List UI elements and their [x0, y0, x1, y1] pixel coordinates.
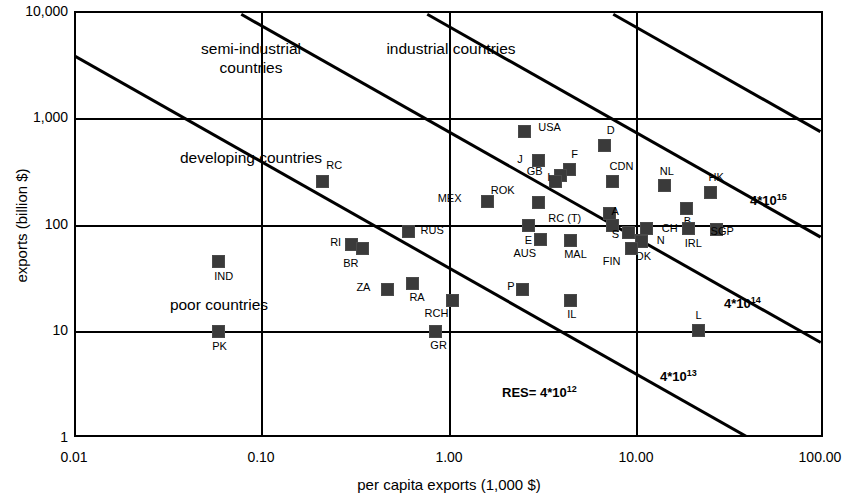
- data-point-marker: [316, 175, 329, 188]
- data-point-label: GB: [527, 166, 543, 177]
- data-point-marker: [518, 125, 531, 138]
- data-point-label: MEX: [438, 193, 462, 204]
- data-point-label: IL: [567, 309, 576, 320]
- data-point-marker: [381, 283, 394, 296]
- y-axis-ticks: 10,000 1,000 100 10 1: [0, 0, 68, 495]
- iso-line-label-exponent: 15: [777, 192, 787, 202]
- data-point-marker: [680, 202, 693, 215]
- data-point-marker: [406, 277, 419, 290]
- x-tick-10-00: 10.00: [618, 450, 653, 464]
- data-point-label: RC: [326, 160, 342, 171]
- data-point-marker: [429, 325, 442, 338]
- y-tick-100: 100: [45, 217, 68, 231]
- data-point-label: PK: [212, 341, 227, 352]
- y-tick-1: 1: [60, 430, 68, 444]
- data-point-label: RC (T): [548, 213, 581, 224]
- data-point-label: IND: [214, 271, 233, 282]
- data-point-marker: [532, 196, 545, 209]
- gridline-x-1-00: [449, 13, 451, 435]
- data-point-marker: [598, 139, 611, 152]
- iso-line-label-exponent: 12: [567, 384, 577, 394]
- data-point-label: ZA: [356, 282, 370, 293]
- x-tick-0-01: 0.01: [60, 450, 87, 464]
- zone-label: poor countries: [119, 296, 319, 314]
- iso-line-label-base: 4*10: [660, 369, 687, 384]
- iso-line-label-base: RES= 4*10: [502, 385, 567, 400]
- data-point-marker: [658, 179, 671, 192]
- data-point-label: I: [547, 172, 550, 183]
- data-point-label: AUS: [513, 248, 536, 259]
- data-point-label: ROK: [491, 185, 515, 196]
- plot-area: semi-industrialcountriesindustrial count…: [74, 11, 823, 437]
- y-tick-10: 10: [52, 323, 68, 337]
- x-tick-100-00: 100.00: [799, 450, 842, 464]
- zone-label: countries: [151, 59, 351, 77]
- data-point-label: RUS: [421, 225, 444, 236]
- data-point-label: CH: [662, 223, 678, 234]
- data-point-label: D: [607, 125, 615, 136]
- data-point-label: SGP: [711, 226, 734, 237]
- data-point-marker: [516, 283, 529, 296]
- gridline-y-10: [76, 331, 821, 333]
- x-axis-title: per capita exports (1,000 $): [357, 476, 540, 493]
- data-point-marker: [606, 175, 619, 188]
- data-point-marker: [481, 195, 494, 208]
- iso-resource-line: [613, 13, 821, 133]
- data-point-marker: [682, 222, 695, 235]
- data-point-label: RA: [409, 292, 424, 303]
- data-point-label: RI: [330, 237, 341, 248]
- data-point-label: MAL: [564, 249, 587, 260]
- data-point-label: CDN: [610, 161, 634, 172]
- data-point-marker: [625, 242, 638, 255]
- data-point-marker: [564, 294, 577, 307]
- data-point-label: USA: [538, 122, 561, 133]
- data-point-label: DK: [636, 251, 651, 262]
- data-point-label: RCH: [425, 308, 449, 319]
- data-point-label: E: [525, 235, 532, 246]
- data-point-marker: [212, 325, 225, 338]
- chart-root: 10,000 1,000 100 10 1 exports (billion $…: [0, 0, 845, 495]
- data-point-marker: [534, 233, 547, 246]
- data-point-label: A: [612, 206, 619, 217]
- iso-line-label-base: 4*10: [750, 193, 777, 208]
- zone-label: developing countries: [151, 149, 351, 167]
- iso-line-label: RES= 4*1012: [502, 384, 577, 400]
- iso-line-label: 4*1014: [724, 295, 761, 311]
- data-point-marker: [704, 186, 717, 199]
- iso-line-label: 4*1015: [750, 192, 787, 208]
- data-point-marker: [212, 255, 225, 268]
- data-point-marker: [549, 175, 562, 188]
- iso-line-label: 4*1013: [660, 368, 697, 384]
- data-point-marker: [564, 234, 577, 247]
- x-tick-1-00: 1.00: [435, 450, 462, 464]
- iso-line-label-exponent: 13: [687, 368, 697, 378]
- data-point-label: BR: [343, 258, 358, 269]
- data-point-label: NL: [660, 166, 674, 177]
- x-tick-0-10: 0.10: [247, 450, 274, 464]
- data-point-marker: [622, 226, 635, 239]
- zone-label: semi-industrial: [151, 40, 351, 58]
- data-point-label: P: [507, 281, 514, 292]
- y-axis-title: exports (billion $): [13, 151, 30, 301]
- data-point-label: J: [517, 154, 523, 165]
- data-point-label: HK: [708, 172, 723, 183]
- data-point-label: S: [612, 229, 619, 240]
- iso-line-label-exponent: 14: [751, 295, 761, 305]
- data-point-label: F: [571, 149, 578, 160]
- data-point-marker: [446, 294, 459, 307]
- data-point-label: GR: [430, 340, 447, 351]
- data-point-marker: [402, 225, 415, 238]
- y-tick-1000: 1,000: [33, 110, 68, 124]
- data-point-label: IRL: [685, 238, 702, 249]
- data-point-label: N: [657, 235, 665, 246]
- y-tick-10000: 10,000: [25, 4, 68, 18]
- iso-line-label-base: 4*10: [724, 296, 751, 311]
- data-point-marker: [692, 324, 705, 337]
- zone-label: industrial countries: [351, 40, 551, 58]
- data-point-marker: [356, 242, 369, 255]
- data-point-label: L: [696, 310, 702, 321]
- data-point-marker: [522, 219, 535, 232]
- data-point-label: FIN: [603, 256, 621, 267]
